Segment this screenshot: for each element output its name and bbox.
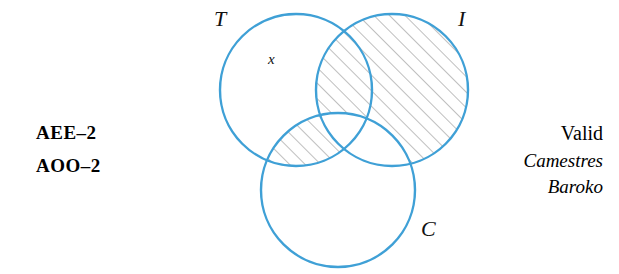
x-mark: x (268, 52, 275, 67)
circle-label-C: C (421, 218, 436, 240)
validity-status: Valid (523, 122, 603, 145)
mood-name-camestres: Camestres (523, 150, 603, 172)
syllogism-code-1: AEE–2 (36, 122, 101, 144)
syllogism-code-2: AOO–2 (36, 155, 101, 177)
venn-diagram-figure: AEE–2 AOO–2 Valid Camestres Baroko T I C… (0, 0, 619, 274)
validity-block: Valid Camestres Baroko (523, 122, 603, 202)
mood-name-baroko: Baroko (523, 176, 603, 198)
circle-label-T: T (214, 8, 226, 30)
circle-label-I: I (458, 8, 465, 30)
syllogism-codes: AEE–2 AOO–2 (36, 122, 101, 188)
